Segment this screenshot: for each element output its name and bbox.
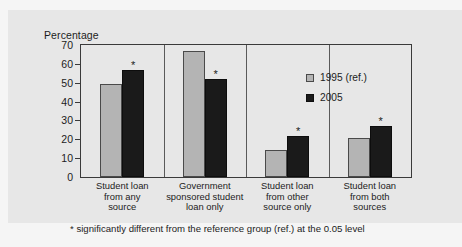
x-axis-label-group-4: Student loanfrom bothsources — [317, 181, 424, 213]
group-separator — [246, 45, 247, 177]
y-axis-tick-label: 20 — [61, 133, 73, 145]
significance-marker: * — [214, 69, 218, 80]
bar-2005-group-4 — [370, 126, 392, 177]
y-axis-tick — [75, 64, 81, 65]
y-axis-tick-label: 30 — [61, 114, 73, 126]
y-axis-tick-label: 60 — [61, 58, 73, 70]
y-axis-tick — [75, 83, 81, 84]
chart-figure: Percentage 010203040506070 **** Student … — [8, 10, 462, 223]
x-axis-label-line: Student loan — [317, 181, 424, 192]
y-axis-tick — [75, 120, 81, 121]
legend-swatch-1995-icon — [306, 74, 314, 82]
legend-label-2005: 2005 — [320, 92, 343, 103]
y-axis-tick-label: 10 — [61, 152, 73, 164]
y-axis-tick — [75, 158, 81, 159]
group-separator — [164, 45, 165, 177]
legend-label-1995: 1995 (ref.) — [320, 72, 367, 83]
x-axis-label-line: sources — [317, 202, 424, 213]
significance-marker: * — [131, 60, 135, 71]
significance-marker: * — [379, 116, 383, 127]
y-axis-tick-label: 40 — [61, 96, 73, 108]
bar-1995-group-2 — [183, 51, 205, 177]
y-axis-tick-label: 70 — [61, 39, 73, 51]
bar-1995-group-1 — [100, 84, 122, 177]
bar-1995-group-4 — [348, 138, 370, 177]
y-axis-tick-label: 50 — [61, 77, 73, 89]
bar-2005-group-3 — [287, 136, 309, 177]
bar-1995-group-3 — [265, 150, 287, 177]
chart-legend: 1995 (ref.) 2005 — [306, 72, 367, 112]
legend-item-1995: 1995 (ref.) — [306, 72, 367, 83]
y-axis-tick — [75, 102, 81, 103]
significance-marker: * — [296, 126, 300, 137]
legend-item-2005: 2005 — [306, 92, 367, 103]
legend-swatch-2005-icon — [306, 94, 314, 102]
bar-2005-group-2 — [205, 79, 227, 177]
chart-footnote: * significantly different from the refer… — [70, 223, 365, 234]
bar-2005-group-1 — [122, 70, 144, 177]
y-axis-tick — [75, 139, 81, 140]
